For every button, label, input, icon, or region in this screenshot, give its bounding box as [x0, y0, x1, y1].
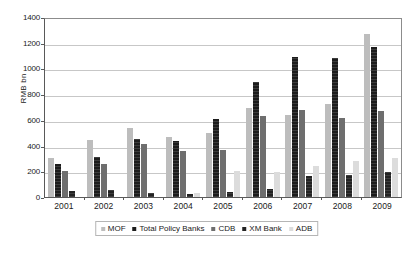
- bar: [180, 151, 186, 197]
- legend-swatch-icon: [211, 227, 215, 231]
- bar: [166, 137, 172, 197]
- y-axis-tick-label: 400: [0, 143, 40, 151]
- bar: [134, 139, 140, 197]
- legend-label: MOF: [108, 224, 126, 233]
- x-axis-labels: 200120022003200420052006200720082009: [44, 201, 402, 211]
- bar-group: [124, 19, 164, 197]
- bar: [292, 57, 298, 197]
- bar: [108, 190, 114, 197]
- bar: [346, 175, 352, 198]
- y-axis-tick-label: 600: [0, 117, 40, 125]
- bar: [353, 161, 359, 197]
- legend-label: XM Bank: [249, 224, 281, 233]
- bar: [392, 158, 398, 197]
- legend-swatch-icon: [289, 227, 293, 231]
- x-axis-tick-label: 2004: [163, 201, 203, 211]
- legend-item[interactable]: Total Policy Banks: [133, 224, 205, 233]
- y-axis-tick-label: 200: [0, 168, 40, 176]
- legend-label: Total Policy Banks: [140, 224, 205, 233]
- x-axis-tick-label: 2009: [362, 201, 402, 211]
- legend-label: CDB: [218, 224, 235, 233]
- bar: [378, 111, 384, 197]
- bar: [94, 157, 100, 197]
- bar-group: [362, 19, 402, 197]
- bar: [148, 193, 154, 197]
- y-axis-tick-mark: [41, 198, 44, 199]
- bar: [127, 128, 133, 197]
- bar: [246, 108, 252, 197]
- bar-groups: [45, 19, 401, 197]
- bar: [62, 171, 68, 197]
- y-axis-tick-label: 1400: [0, 14, 40, 22]
- bar: [55, 164, 61, 197]
- bar: [187, 194, 193, 197]
- x-axis-tick-label: 2001: [44, 201, 84, 211]
- x-axis-tick-label: 2006: [243, 201, 283, 211]
- bar: [87, 140, 93, 197]
- bar: [299, 110, 305, 197]
- y-axis-tick-label: 1200: [0, 40, 40, 48]
- bar: [101, 164, 107, 197]
- bar-group: [203, 19, 243, 197]
- bar: [306, 176, 312, 197]
- legend-item[interactable]: XM Bank: [242, 224, 281, 233]
- bar-group: [282, 19, 322, 197]
- bar-group: [85, 19, 125, 197]
- bar-chart: RMB bn 0200400600800100012001400 2001200…: [0, 0, 413, 253]
- chart-legend: MOFTotal Policy BanksCDBXM BankADB: [95, 221, 319, 236]
- bar: [48, 158, 54, 197]
- bar-group: [322, 19, 362, 197]
- legend-item[interactable]: MOF: [101, 224, 126, 233]
- legend-item[interactable]: ADB: [289, 224, 312, 233]
- bar: [313, 166, 319, 197]
- bar: [385, 172, 391, 197]
- legend-swatch-icon: [242, 227, 246, 231]
- bar: [194, 193, 200, 197]
- bar: [69, 191, 75, 197]
- bar: [206, 133, 212, 197]
- x-axis-tick-label: 2002: [84, 201, 124, 211]
- y-axis-tick-label: 0: [0, 194, 40, 202]
- x-axis-tick-label: 2007: [283, 201, 323, 211]
- bar-group: [164, 19, 204, 197]
- y-axis-tick-label: 800: [0, 91, 40, 99]
- legend-item[interactable]: CDB: [211, 224, 235, 233]
- bar: [227, 192, 233, 197]
- x-axis-tick-label: 2003: [124, 201, 164, 211]
- y-axis-tick-label: 1000: [0, 65, 40, 73]
- bar: [274, 172, 280, 197]
- x-axis-tick-label: 2005: [203, 201, 243, 211]
- bar: [285, 115, 291, 197]
- bar: [141, 144, 147, 197]
- bar: [325, 104, 331, 197]
- bar-group: [243, 19, 283, 197]
- plot-area: [44, 18, 402, 198]
- bar: [267, 189, 273, 197]
- bar: [260, 116, 266, 197]
- legend-swatch-icon: [133, 227, 137, 231]
- legend-label: ADB: [296, 224, 312, 233]
- bar: [234, 171, 240, 197]
- bar: [220, 150, 226, 197]
- bar-group: [45, 19, 85, 197]
- bar: [173, 141, 179, 197]
- bar: [332, 58, 338, 197]
- bar: [253, 82, 259, 197]
- x-axis-tick-label: 2008: [322, 201, 362, 211]
- bar: [364, 34, 370, 197]
- bar: [339, 118, 345, 197]
- bar: [371, 47, 377, 197]
- legend-swatch-icon: [101, 227, 105, 231]
- bar: [213, 119, 219, 197]
